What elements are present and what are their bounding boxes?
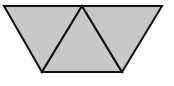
diagram-canvas <box>0 0 174 86</box>
trapezoid-diagram <box>0 0 174 86</box>
